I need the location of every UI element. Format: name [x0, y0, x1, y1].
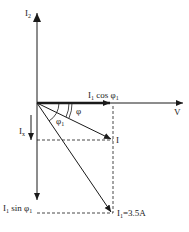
phi1-label: φ1	[56, 117, 64, 127]
i1-sin-label: I1 sin φ1	[3, 204, 32, 214]
i1-phasor	[37, 103, 111, 212]
i1-cos-label: I1 cos φ1	[88, 91, 119, 101]
i2-axis-label: I2	[25, 9, 31, 19]
phasor-diagram	[0, 0, 189, 232]
phi-label: φ	[76, 107, 81, 116]
i1-value-label: I1=3.5A	[117, 209, 146, 219]
phi-arc-outer	[69, 103, 72, 118]
ix-label: Ix	[19, 127, 25, 137]
phi-arc-inner	[66, 103, 69, 117]
i-phasor	[37, 103, 111, 139]
i-phasor-label: I	[116, 136, 119, 145]
v-axis-label: V	[174, 108, 181, 117]
